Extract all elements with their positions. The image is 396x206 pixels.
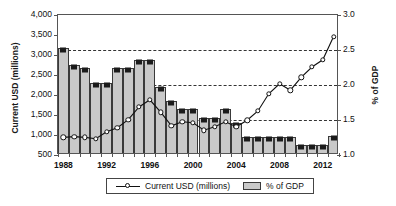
x-tick [177,153,178,157]
chart-legend: Current USD (millions) % of GDP [106,178,314,194]
y-tick-label-left: 1,500 [31,109,52,119]
x-tick-label: 1996 [140,160,159,170]
plot-inner [58,15,337,153]
y-tick-right [337,120,341,121]
x-tick [296,153,297,157]
y-tick-left [54,15,58,16]
y-tick-label-left: 2,500 [31,69,52,79]
x-tick [188,153,189,157]
x-tick [328,153,329,157]
y-axis-left-title: Current USD (millions) [10,42,20,134]
x-tick [80,153,81,157]
y-tick-right [337,15,341,16]
x-tick [231,153,232,157]
y-tick-label-left: 4,000 [31,9,52,19]
line-circle-marker-icon [116,183,140,190]
y-tick-right [337,85,341,86]
x-tick [220,153,221,157]
x-tick [90,153,91,157]
x-tick [242,153,243,157]
x-tick [166,153,167,157]
x-tick [144,153,145,157]
y-axis-right-title: % of GDP [370,46,380,124]
y-tick-label-right: 2.5 [343,44,355,54]
y-tick-left [54,75,58,76]
y-tick-label-left: 3,500 [31,29,52,39]
x-tick [58,153,59,157]
x-tick-label: 1988 [54,160,73,170]
gray-bar-swatch-icon [243,182,261,190]
x-tick [253,153,254,157]
y-tick-right [337,50,341,51]
x-tick-label: 2008 [270,160,289,170]
x-tick [101,153,102,157]
x-tick [69,153,70,157]
y-tick-label-right: 2.0 [343,79,355,89]
x-tick-label: 2004 [227,160,246,170]
x-tick [317,153,318,157]
y-tick-left [54,35,58,36]
x-tick [123,153,124,157]
y-tick-left [54,55,58,56]
y-tick-label-right: 3.0 [343,9,355,19]
y-tick-left [54,95,58,96]
y-tick-left [54,135,58,136]
line-series-path [58,15,337,153]
legend-label-pct-gdp: % of GDP [266,181,304,191]
y-tick-label-left: 1,000 [31,129,52,139]
legend-item-pct-gdp: % of GDP [243,181,304,191]
y-tick-label-right: 1.5 [343,114,355,124]
x-tick [155,153,156,157]
x-tick-label: 2000 [184,160,203,170]
y-tick-label-left: 2,000 [31,89,52,99]
y-tick-left [54,115,58,116]
x-tick [209,153,210,157]
x-tick [285,153,286,157]
x-tick [339,153,340,157]
dual-axis-chart: Current USD (millions) % of GDP 5001,000… [0,0,396,206]
x-tick [274,153,275,157]
x-tick [134,153,135,157]
x-tick [112,153,113,157]
x-tick [263,153,264,157]
y-tick-label-left: 3,000 [31,49,52,59]
legend-label-current-usd: Current USD (millions) [145,181,230,191]
y-tick-label-right: 1.0 [343,149,355,159]
legend-item-current-usd: Current USD (millions) [116,181,230,191]
plot-area: 5001,0001,5002,0002,5003,0003,5004,000 1… [57,14,338,154]
x-tick-label: 2012 [313,160,332,170]
x-tick [199,153,200,157]
y-tick-label-left: 500 [38,149,52,159]
x-tick-label: 1992 [97,160,116,170]
x-tick [307,153,308,157]
